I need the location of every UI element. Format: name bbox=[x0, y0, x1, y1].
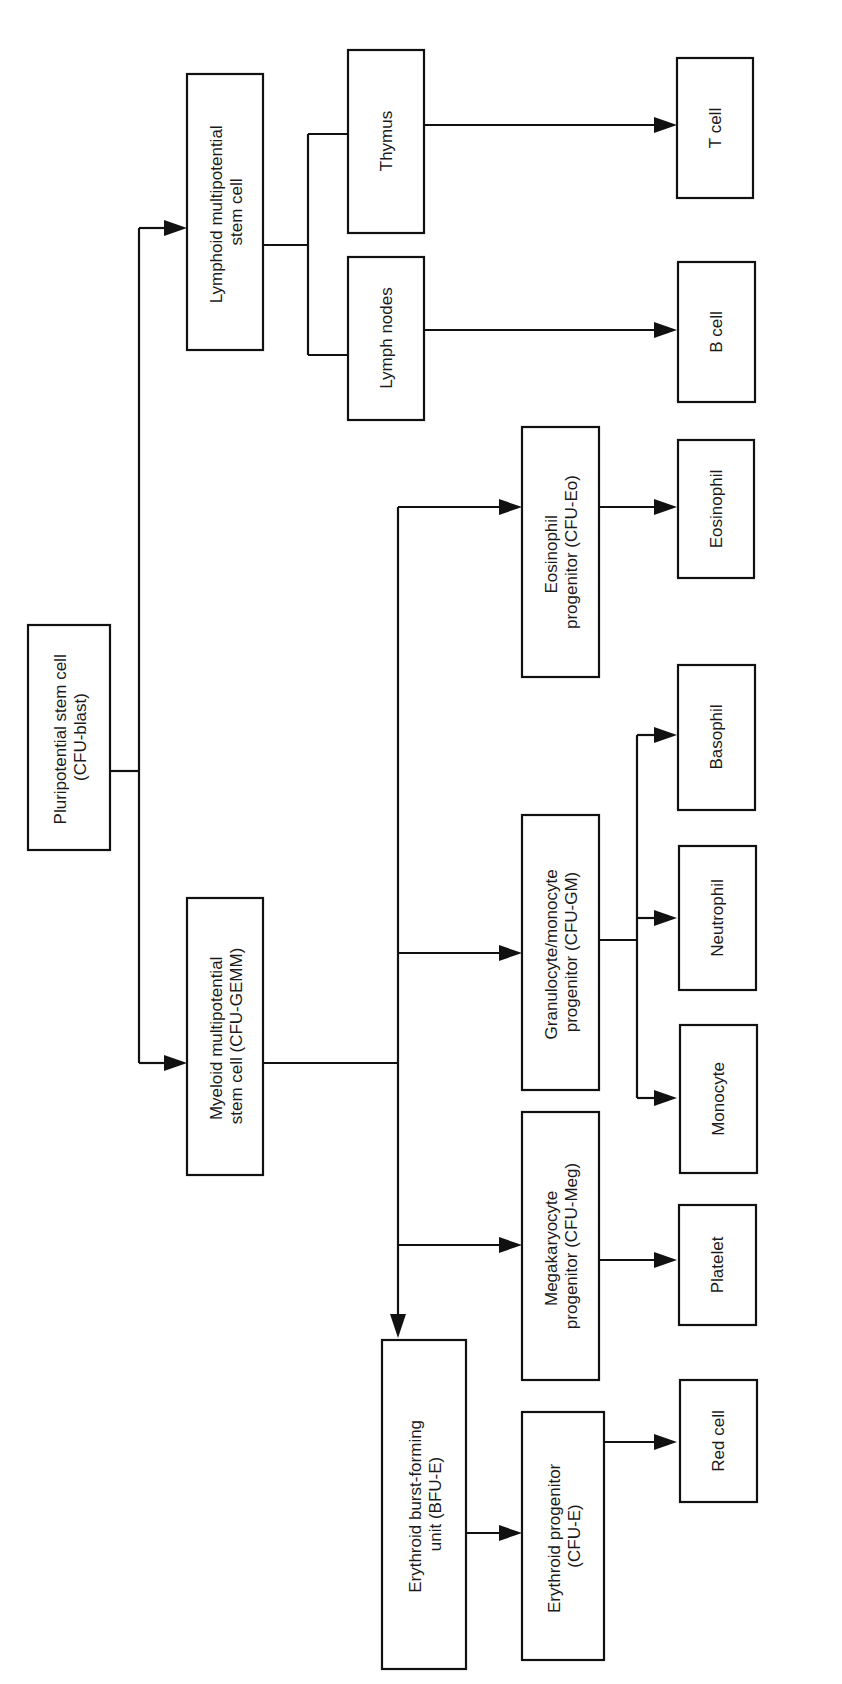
node-cfu-e: Erythroid progenitor (CFU-E) bbox=[522, 1412, 604, 1660]
svg-text:Thymus: Thymus bbox=[377, 111, 396, 171]
node-label: Erythroid progenitor bbox=[545, 1463, 564, 1613]
node-label: Erythroid burst-forming bbox=[406, 1420, 425, 1593]
node-label: unit (BFU-E) bbox=[426, 1457, 445, 1551]
arrow-to-bfu-e bbox=[390, 1314, 406, 1338]
node-label: progenitor (CFU-GM) bbox=[562, 872, 581, 1033]
node-label: stem cell bbox=[227, 178, 246, 245]
node-label: progenitor (CFU-Eo) bbox=[562, 475, 581, 629]
svg-text:Megakaryocyte progenitor: Megakaryocyte progenitor (CFU-Meg) bbox=[542, 1163, 581, 1329]
node-pluripotential-stem-cell: Pluripotential stem cell (CFU-blast) bbox=[28, 625, 110, 850]
svg-text:Basophil: Basophil bbox=[707, 704, 726, 769]
node-label: Basophil bbox=[707, 704, 726, 769]
node-granulocyte-monocyte-progenitor: Granulocyte/monocyte progenitor (CFU-GM) bbox=[522, 815, 599, 1090]
arrow-to-platelet bbox=[654, 1252, 677, 1268]
svg-text:B cell: B cell bbox=[707, 311, 726, 353]
arrow-to-myeloid bbox=[164, 1055, 187, 1071]
node-label: Thymus bbox=[377, 111, 396, 171]
arrow-to-eosinophil bbox=[654, 499, 677, 515]
svg-text:Platelet: Platelet bbox=[708, 1236, 727, 1293]
node-label: Megakaryocyte bbox=[542, 1191, 561, 1306]
node-label: Granulocyte/monocyte bbox=[542, 869, 561, 1039]
node-basophil: Basophil bbox=[678, 665, 755, 810]
arrow-to-basophil bbox=[654, 727, 677, 743]
node-label: B cell bbox=[707, 311, 726, 353]
node-label: Myeloid multipotential bbox=[207, 957, 226, 1120]
node-label: T cell bbox=[706, 108, 725, 148]
node-label: Eosinophil bbox=[707, 470, 726, 548]
svg-text:Myeloid multipotential s: Myeloid multipotential stem cell (CFU-GE… bbox=[207, 948, 246, 1125]
arrow-to-red-cell bbox=[654, 1434, 677, 1450]
node-thymus: Thymus bbox=[348, 50, 424, 233]
svg-text:Monocyte: Monocyte bbox=[709, 1062, 728, 1136]
node-label: Platelet bbox=[708, 1236, 727, 1293]
node-label: Lymph nodes bbox=[377, 287, 396, 388]
node-label: Lymphoid multipotential bbox=[207, 125, 226, 303]
node-label: Pluripotential stem cell bbox=[51, 654, 70, 824]
arrow-to-b-cell bbox=[654, 322, 677, 338]
svg-text:Lymph nodes: Lymph nodes bbox=[377, 287, 396, 388]
node-label: Neutrophil bbox=[708, 879, 727, 957]
arrow-to-neutrophil bbox=[654, 910, 677, 926]
node-label: Eosinophil bbox=[542, 515, 561, 593]
node-red-cell: Red cell bbox=[680, 1380, 757, 1502]
node-platelet: Platelet bbox=[679, 1205, 756, 1325]
node-bfu-e: Erythroid burst-forming unit (BFU-E) bbox=[382, 1340, 466, 1669]
arrow-to-lymphoid bbox=[164, 220, 187, 236]
node-label: stem cell (CFU-GEMM) bbox=[227, 948, 246, 1125]
node-label: (CFU-blast) bbox=[71, 693, 90, 781]
node-b-cell: B cell bbox=[678, 262, 755, 402]
node-label: progenitor (CFU-Meg) bbox=[562, 1163, 581, 1329]
svg-text:Granulocyte/monocyte pro: Granulocyte/monocyte progenitor (CFU-GM) bbox=[542, 865, 581, 1040]
node-myeloid-stem-cell: Myeloid multipotential stem cell (CFU-GE… bbox=[187, 898, 263, 1175]
svg-text:Neutrophil: Neutrophil bbox=[708, 879, 727, 957]
hematopoiesis-diagram: Pluripotential stem cell (CFU-blast) Lym… bbox=[0, 0, 842, 1684]
arrow-to-gm-progenitor bbox=[499, 945, 522, 961]
node-eosinophil-progenitor: Eosinophil progenitor (CFU-Eo) bbox=[522, 427, 599, 677]
node-monocyte: Monocyte bbox=[680, 1025, 757, 1173]
svg-text:T cell: T cell bbox=[706, 108, 725, 148]
arrow-to-meg-progenitor bbox=[499, 1237, 522, 1253]
svg-text:Red cell: Red cell bbox=[709, 1410, 728, 1471]
arrow-to-monocyte bbox=[654, 1090, 677, 1106]
arrow-to-t-cell bbox=[654, 117, 677, 133]
node-label: Monocyte bbox=[709, 1062, 728, 1136]
arrow-to-cfu-e bbox=[499, 1525, 522, 1541]
node-eosinophil: Eosinophil bbox=[678, 440, 754, 578]
node-label: Red cell bbox=[709, 1410, 728, 1471]
node-t-cell: T cell bbox=[677, 58, 753, 198]
svg-text:Eosinophil: Eosinophil bbox=[707, 470, 726, 548]
node-megakaryocyte-progenitor: Megakaryocyte progenitor (CFU-Meg) bbox=[522, 1112, 599, 1380]
node-lymphoid-stem-cell: Lymphoid multipotential stem cell bbox=[187, 74, 263, 350]
node-label: (CFU-E) bbox=[565, 1504, 584, 1567]
arrow-to-eosinophil-progenitor bbox=[499, 499, 522, 515]
node-neutrophil: Neutrophil bbox=[679, 846, 756, 990]
node-lymph-nodes: Lymph nodes bbox=[348, 257, 424, 420]
